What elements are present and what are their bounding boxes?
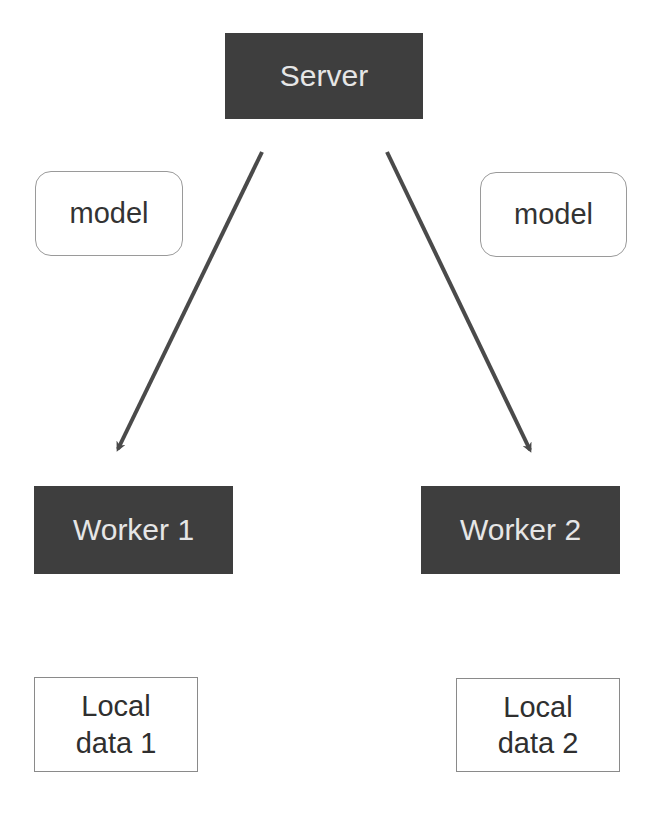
server-node: Server	[225, 33, 423, 119]
model-label-right: model	[514, 198, 593, 231]
worker-2-label: Worker 2	[460, 513, 581, 547]
model-label-left: model	[70, 197, 149, 230]
worker-2-node: Worker 2	[421, 486, 620, 574]
local-data-2-line2: data 2	[498, 725, 579, 761]
local-data-2-line1: Local	[503, 689, 572, 725]
model-node-right: model	[480, 172, 627, 257]
worker-1-node: Worker 1	[34, 486, 233, 574]
local-data-1-line1: Local	[81, 688, 150, 724]
local-data-2-node: Local data 2	[456, 678, 620, 772]
model-node-left: model	[35, 171, 183, 256]
local-data-1-node: Local data 1	[34, 677, 198, 772]
server-label: Server	[280, 59, 368, 93]
local-data-1-line2: data 1	[76, 725, 157, 761]
worker-1-label: Worker 1	[73, 513, 194, 547]
